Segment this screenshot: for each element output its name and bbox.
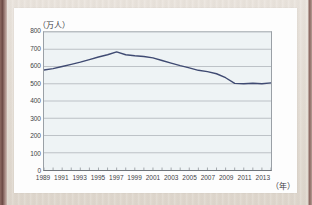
x-tick-label: 1993	[72, 175, 86, 182]
x-tick-label: 2007	[201, 175, 215, 182]
white-content-page: （万人） 8007006005004003002001000 198919911…	[14, 8, 297, 193]
y-tick-label: 300	[15, 116, 41, 123]
x-tick-label: 2011	[238, 175, 252, 182]
x-tick-label: 1995	[91, 175, 105, 182]
y-tick-label: 800	[15, 28, 41, 35]
plot-area	[43, 31, 272, 171]
x-tick-label: 2001	[146, 175, 160, 182]
y-axis-unit-caption: （万人）	[38, 19, 70, 30]
x-axis-unit-caption: （年）	[271, 180, 295, 191]
x-tick-label: 1989	[36, 175, 50, 182]
x-tick-label: 2009	[219, 175, 233, 182]
plot-inner	[44, 32, 271, 170]
x-tick-label: 1999	[127, 175, 141, 182]
book-spine-stripe-left	[0, 0, 7, 205]
y-tick-label: 700	[15, 46, 41, 53]
y-tick-label: 600	[15, 63, 41, 70]
x-axis-tick-labels: 1989199119931995199719992001200320052007…	[43, 175, 272, 187]
gridlines-group	[44, 32, 271, 153]
y-axis-tick-labels: 8007006005004003002001000	[14, 31, 41, 171]
line-chart-figure: （万人） 8007006005004003002001000 198919911…	[14, 8, 297, 193]
book-spine-stripe-right	[308, 0, 312, 205]
y-tick-label: 400	[15, 98, 41, 105]
y-tick-label: 200	[15, 133, 41, 140]
data-series-line	[44, 52, 271, 84]
x-tick-label: 2003	[164, 175, 178, 182]
chart-canvas	[44, 32, 271, 170]
scanned-page-root: （万人） 8007006005004003002001000 198919911…	[0, 0, 312, 205]
x-tick-label: 2005	[182, 175, 196, 182]
x-tick-label: 1997	[109, 175, 123, 182]
x-tick-label: 2013	[256, 175, 270, 182]
x-tick-marks-group	[44, 168, 271, 170]
y-tick-label: 500	[15, 81, 41, 88]
y-tick-label: 100	[15, 151, 41, 158]
x-tick-label: 1991	[54, 175, 68, 182]
